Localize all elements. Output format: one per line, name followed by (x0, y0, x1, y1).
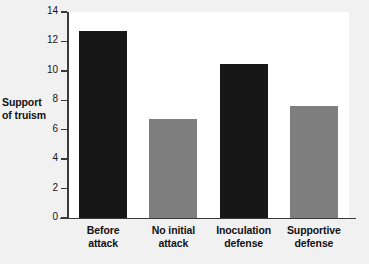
bar-chart-figure: Support of truism 02468101214 Beforeatta… (0, 0, 369, 264)
y-tick-mark (61, 70, 67, 71)
bar-4 (290, 106, 338, 218)
y-tick-label: 10 (12, 64, 58, 75)
y-tick-mark (61, 217, 67, 218)
bar-1 (79, 31, 127, 218)
y-tick-label: 2 (12, 182, 58, 193)
y-tick-label: 4 (12, 152, 58, 163)
bar-2 (149, 119, 197, 218)
y-tick-label: 14 (12, 5, 58, 16)
y-tick-mark (61, 100, 67, 101)
x-axis-label-4-line-2: defense (271, 237, 357, 250)
x-axis-label-4: Supportivedefense (271, 224, 357, 249)
x-axis-label-4-line-1: Supportive (271, 224, 357, 237)
y-tick-mark (61, 158, 67, 159)
y-tick-label: 0 (12, 211, 58, 222)
y-tick-mark (61, 129, 67, 130)
y-tick-label: 12 (12, 34, 58, 45)
y-tick-label: 8 (12, 93, 58, 104)
y-tick-mark (61, 11, 67, 12)
bars-layer (68, 12, 349, 218)
y-tick-label: 6 (12, 123, 58, 134)
y-tick-mark (61, 188, 67, 189)
bar-3 (220, 64, 268, 218)
y-axis-title-line-2: of truism (2, 109, 58, 122)
y-tick-mark (61, 41, 67, 42)
